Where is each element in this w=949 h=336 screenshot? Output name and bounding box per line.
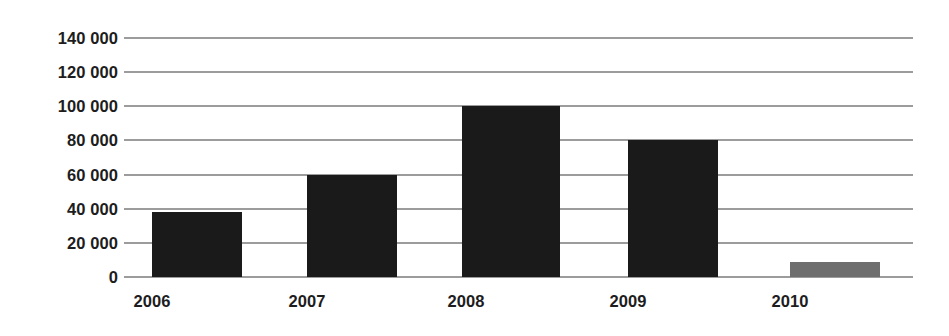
y-axis-label-60000: 60 000 (0, 166, 118, 183)
bar-2009[interactable] (628, 140, 718, 277)
x-axis-label-2008: 2008 (421, 293, 511, 310)
x-axis-label-2006: 2006 (107, 293, 197, 310)
bar-chart: 140 000 120 000 100 000 80 000 60 000 40… (0, 0, 949, 336)
bar-2008[interactable] (462, 106, 560, 277)
x-axis-label-2007: 2007 (262, 293, 352, 310)
y-axis-label-100000: 100 000 (0, 98, 118, 115)
y-axis-label-120000: 120 000 (0, 64, 118, 81)
x-axis-label-2009: 2009 (583, 293, 673, 310)
bar-2010[interactable] (790, 262, 880, 277)
y-axis-label-20000: 20 000 (0, 235, 118, 252)
bar-2007[interactable] (307, 175, 397, 277)
bars-layer (124, 0, 913, 336)
bar-2006[interactable] (152, 212, 242, 277)
y-axis-label-40000: 40 000 (0, 200, 118, 217)
y-axis-label-140000: 140 000 (0, 30, 118, 47)
x-axis-label-2010: 2010 (745, 293, 835, 310)
y-axis-label-80000: 80 000 (0, 132, 118, 149)
y-axis-label-0: 0 (0, 269, 118, 286)
